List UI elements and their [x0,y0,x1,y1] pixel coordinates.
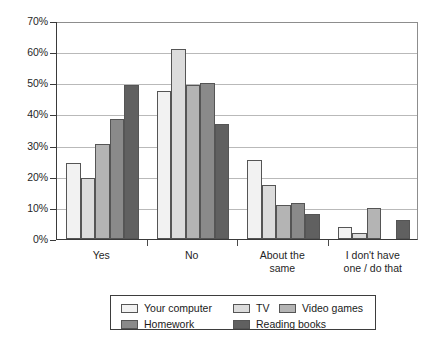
legend-label: Video games [302,302,363,314]
bar-your-computer [157,91,172,239]
bar-video-games [367,208,382,239]
y-axis-tick-label: 30% [4,140,48,152]
legend-item-homework: Homework [121,317,194,331]
bar-your-computer [247,160,262,239]
y-axis-tick-label: 50% [4,77,48,89]
bar-homework [110,119,125,239]
bar-tv [352,233,367,239]
bar-homework [200,83,215,239]
bar-tv [171,49,186,239]
legend-item-tv: TV [233,301,269,315]
y-axis-tick-label: 40% [4,108,48,120]
y-axis-tick-label: 20% [4,171,48,183]
bar-reading-books [215,124,230,239]
bar-chart: 0%10%20%30%40%50%60%70% YesNoAbout thesa… [0,0,440,343]
x-axis-category-label: I don't haveone / do that [318,249,428,274]
legend-label: Homework [144,318,194,330]
bar-group [157,22,230,239]
bar-homework [291,203,306,239]
bar-tv [81,178,96,239]
bar-reading-books [124,85,139,239]
bar-video-games [186,85,201,239]
y-axis-tick-label: 70% [4,15,48,27]
x-axis-separator-tick [147,240,148,246]
legend-swatch-icon [233,320,250,329]
plot-area [56,22,418,240]
legend-swatch-icon [279,304,296,313]
legend-label: Reading books [256,318,326,330]
legend-item-reading-books: Reading books [233,317,326,331]
bar-video-games [276,205,291,239]
bar-group [66,22,139,239]
legend-swatch-icon [233,304,250,313]
y-axis-tick-mark [50,240,56,241]
x-axis-separator-tick [237,240,238,246]
bar-reading-books [396,220,411,239]
bar-video-games [95,144,110,239]
y-axis-tick-label: 0% [4,233,48,245]
bar-your-computer [66,163,81,239]
bar-your-computer [338,227,353,239]
legend-label: Your computer [144,302,212,314]
bar-tv [262,185,277,240]
legend-item-video-games: Video games [279,301,363,315]
bar-group [338,22,411,239]
legend-swatch-icon [121,304,138,313]
bar-group [247,22,320,239]
category-label-line1: I don't have [318,249,428,262]
bar-reading-books [305,214,320,239]
y-axis-tick-label: 60% [4,46,48,58]
y-axis-tick-label: 10% [4,202,48,214]
chart-legend: Your computerTVVideo gamesHomeworkReadin… [110,295,376,330]
x-axis-separator-tick [328,240,329,246]
legend-label: TV [256,302,269,314]
legend-item-your-computer: Your computer [121,301,212,315]
legend-swatch-icon [121,320,138,329]
category-label-line2: one / do that [318,262,428,275]
